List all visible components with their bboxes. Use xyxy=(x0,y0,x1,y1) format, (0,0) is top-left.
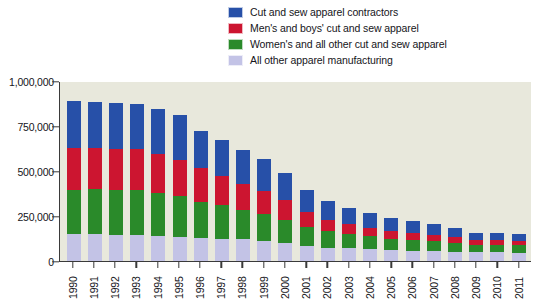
bar-segment xyxy=(236,150,250,183)
bar-column[interactable] xyxy=(444,82,465,261)
bar-column[interactable] xyxy=(466,82,487,261)
bar-segment xyxy=(109,149,123,190)
bar-segment xyxy=(67,234,81,261)
bar-column[interactable] xyxy=(169,82,190,261)
x-axis-tick-label: 1991 xyxy=(88,267,100,299)
x-axis-tick-label: 2004 xyxy=(364,267,376,299)
bar-segment xyxy=(215,239,229,262)
y-axis-tick-mark xyxy=(52,261,59,262)
bar-segment xyxy=(427,224,441,235)
legend-item-label: All other apparel manufacturing xyxy=(250,55,393,66)
bar-stack xyxy=(300,190,314,261)
bar-segment xyxy=(236,210,250,240)
bar-column[interactable] xyxy=(148,82,169,261)
bar-segment xyxy=(236,239,250,261)
bar-segment xyxy=(278,200,292,220)
bar-column[interactable] xyxy=(296,82,317,261)
bar-stack xyxy=(490,233,504,261)
bar-segment xyxy=(384,250,398,261)
x-axis-tick-label: 1998 xyxy=(236,267,248,299)
x-axis-tick-label: 1994 xyxy=(152,267,164,299)
bar-column[interactable] xyxy=(233,82,254,261)
bar-column[interactable] xyxy=(487,82,508,261)
x-axis-tick-label: 2011 xyxy=(513,267,525,299)
bar-column[interactable] xyxy=(381,82,402,261)
legend-color-swatch xyxy=(228,55,243,66)
apparel-employment-stacked-bar-chart: Cut and sew apparel contractorsMen's and… xyxy=(0,0,536,299)
bar-segment xyxy=(342,234,356,248)
bar-segment xyxy=(278,173,292,200)
x-axis-category: 2011 xyxy=(508,264,529,299)
bar-column[interactable] xyxy=(63,82,84,261)
bar-segment xyxy=(363,236,377,249)
x-axis-category: 2007 xyxy=(423,264,444,299)
legend-item-label: Women's and all other cut and sew appare… xyxy=(250,39,447,50)
bar-column[interactable] xyxy=(360,82,381,261)
bar-stack xyxy=(278,173,292,261)
legend-item-label: Cut and sew apparel contractors xyxy=(250,7,398,18)
legend-item[interactable]: Women's and all other cut and sew appare… xyxy=(228,37,532,51)
bar-stack xyxy=(257,159,271,261)
bar-column[interactable] xyxy=(105,82,126,261)
chart-legend: Cut and sew apparel contractorsMen's and… xyxy=(228,5,532,67)
bar-segment xyxy=(236,184,250,210)
bar-segment xyxy=(427,251,441,261)
y-axis-tick-label: 1,000,000 xyxy=(0,76,54,88)
bar-stack xyxy=(173,115,187,261)
x-axis-tick-label: 2008 xyxy=(449,267,461,299)
bar-segment xyxy=(194,131,208,168)
x-axis-tick-label: 2010 xyxy=(491,267,503,299)
bar-column[interactable] xyxy=(423,82,444,261)
bar-segment xyxy=(469,245,483,253)
y-axis-tick-mark xyxy=(52,126,59,127)
bar-segment xyxy=(151,154,165,193)
bar-column[interactable] xyxy=(127,82,148,261)
bar-segment xyxy=(194,202,208,238)
x-axis-tick-label: 1990 xyxy=(67,267,79,299)
bar-column[interactable] xyxy=(254,82,275,261)
bar-column[interactable] xyxy=(275,82,296,261)
bar-stack xyxy=(109,103,123,261)
bar-segment xyxy=(151,193,165,236)
x-axis-category: 1990 xyxy=(62,264,83,299)
x-axis-tick-label: 2005 xyxy=(385,267,397,299)
legend-item[interactable]: All other apparel manufacturing xyxy=(228,53,532,67)
bar-segment xyxy=(215,176,229,206)
bar-column[interactable] xyxy=(508,82,529,261)
bar-segment xyxy=(130,235,144,261)
x-axis-tick-label: 2009 xyxy=(470,267,482,299)
legend-item[interactable]: Men's and boys' cut and sew apparel xyxy=(228,21,532,35)
bar-segment xyxy=(173,160,187,196)
plot-area xyxy=(59,82,531,262)
x-axis-category: 2005 xyxy=(381,264,402,299)
bar-segment xyxy=(363,213,377,227)
x-axis-category: 1995 xyxy=(168,264,189,299)
bar-segment xyxy=(130,149,144,190)
bar-stack xyxy=(512,234,526,262)
y-axis-tick-label: 250,000 xyxy=(0,211,54,223)
bar-segment xyxy=(67,190,81,234)
bar-segment xyxy=(363,228,377,237)
bar-segment xyxy=(512,234,526,241)
bar-segment xyxy=(88,148,102,189)
x-axis-category: 2010 xyxy=(487,264,508,299)
x-axis-tick-label: 2002 xyxy=(321,267,333,299)
bar-column[interactable] xyxy=(317,82,338,261)
y-axis-tick-label: 750,000 xyxy=(0,121,54,133)
bar-segment xyxy=(490,233,504,240)
bar-column[interactable] xyxy=(338,82,359,261)
bar-segment xyxy=(406,221,420,233)
bar-segment xyxy=(469,233,483,241)
bar-segment xyxy=(300,190,314,212)
bar-segment xyxy=(406,233,420,240)
bar-stack xyxy=(215,140,229,261)
bar-column[interactable] xyxy=(402,82,423,261)
legend-item-label: Men's and boys' cut and sew apparel xyxy=(250,23,419,34)
bar-segment xyxy=(448,228,462,238)
bar-column[interactable] xyxy=(84,82,105,261)
bar-segment xyxy=(300,227,314,246)
bar-column[interactable] xyxy=(211,82,232,261)
legend-item[interactable]: Cut and sew apparel contractors xyxy=(228,5,532,19)
bar-stack xyxy=(130,104,144,261)
bar-column[interactable] xyxy=(190,82,211,261)
